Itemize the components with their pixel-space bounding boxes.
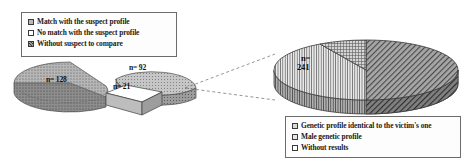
legend-item-male-genetic-profile: Male genetic profile [292, 131, 454, 142]
left-pie-svg: x [10, 57, 185, 119]
legend-item-label: Without results [301, 142, 348, 153]
figure-canvas: Match with the suspect profile No match … [0, 0, 467, 167]
white-swatch-icon [28, 30, 34, 36]
dotted-grey-swatch-icon [28, 19, 34, 25]
vertical-line-swatch-icon [292, 134, 298, 140]
left-chart-legend: Match with the suspect profile No match … [21, 12, 177, 57]
left-slice-label-21: n= 21 [113, 82, 130, 91]
right-chart-legend: Genetic profile identical to the victim'… [285, 116, 461, 158]
legend-item-no-match-with-suspect-profile: No match with the suspect profile [28, 27, 170, 38]
right-pie-total-label-line2: 241 [297, 63, 309, 73]
right-pie-chart: n= 241 [268, 28, 464, 116]
legend-item-without-results: Without results [292, 142, 454, 153]
legend-item-genetic-profile-identical: Genetic profile identical to the victim'… [292, 120, 454, 131]
left-pie-chart: x n= 128 n= 92 n= 21 [10, 57, 185, 119]
left-slice-label-92: n= 92 [129, 63, 146, 72]
grid-hatch-swatch-icon [292, 123, 298, 129]
legend-item-label: Without suspect to compare [37, 38, 123, 49]
left-slice-match-128 [14, 62, 109, 112]
legend-item-without-suspect-to-compare: Without suspect to compare [28, 38, 170, 49]
legend-item-match-with-suspect-profile: Match with the suspect profile [28, 16, 170, 27]
legend-item-label: Match with the suspect profile [37, 16, 130, 27]
left-slice-label-128: n= 128 [46, 75, 67, 84]
legend-item-label: Genetic profile identical to the victim'… [301, 120, 431, 131]
legend-item-label: No match with the suspect profile [37, 27, 139, 38]
legend-item-label: Male genetic profile [301, 131, 362, 142]
dark-hatch-swatch-icon [28, 41, 34, 47]
white-swatch-icon [292, 145, 298, 151]
